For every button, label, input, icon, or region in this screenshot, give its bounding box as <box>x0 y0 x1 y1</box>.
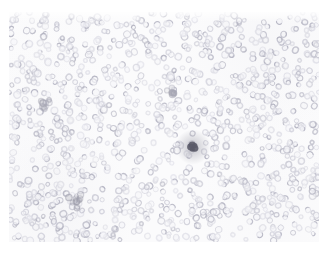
blood-smear-micrograph <box>0 0 328 254</box>
micrograph-viewer: Peripheral blood smear showing a dense m… <box>0 0 328 254</box>
